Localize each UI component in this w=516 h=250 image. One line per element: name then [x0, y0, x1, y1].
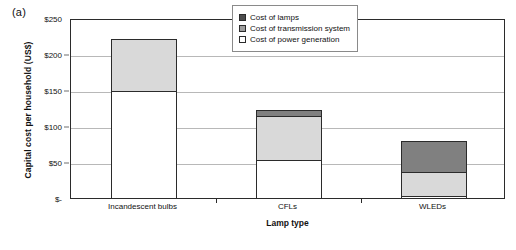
bar-segment — [111, 39, 177, 93]
chart-figure: (a) Capital cost per household (US$) $-$… — [0, 0, 516, 250]
y-tick-label: $100 — [44, 123, 62, 132]
legend-label: Cost of lamps — [250, 13, 299, 22]
y-tick-label: $- — [55, 195, 62, 204]
legend-swatch-icon — [239, 36, 246, 43]
legend-swatch-icon — [239, 14, 246, 21]
x-tick-label: Incandescent bulbs — [108, 202, 177, 211]
panel-label: (a) — [12, 6, 26, 18]
y-tick-label: $50 — [49, 159, 62, 168]
x-tick-label: CFLs — [278, 202, 297, 211]
bar-cfls — [256, 107, 322, 198]
x-axis-title: Lamp type — [70, 218, 505, 228]
bar-segment — [256, 116, 322, 161]
x-axis-tick-labels: Incandescent bulbsCFLsWLEDs — [70, 202, 505, 216]
bar-segment — [401, 196, 467, 200]
x-tick-label: WLEDs — [419, 202, 446, 211]
y-tick-label: $200 — [44, 51, 62, 60]
legend-item: Cost of power generation — [239, 35, 350, 44]
bar-incandescent-bulbs — [111, 36, 177, 198]
y-tick-label: $150 — [44, 87, 62, 96]
y-tick-label: $250 — [44, 15, 62, 24]
legend-item: Cost of transmission system — [239, 24, 350, 33]
legend-label: Cost of transmission system — [250, 24, 350, 33]
bar-segment — [111, 91, 177, 199]
legend-item: Cost of lamps — [239, 13, 350, 22]
legend-swatch-icon — [239, 25, 246, 32]
y-axis-tick-labels: $-$50$100$150$200$250 — [0, 19, 66, 199]
bar-segment — [256, 160, 322, 200]
y-tick-mark — [64, 127, 69, 128]
legend-label: Cost of power generation — [250, 35, 339, 44]
bar-segment — [401, 172, 467, 197]
y-tick-mark — [64, 163, 69, 164]
chart-legend: Cost of lamps Cost of transmission syste… — [232, 5, 358, 52]
bar-segment — [401, 141, 467, 173]
y-tick-mark — [64, 55, 69, 56]
y-tick-mark — [64, 91, 69, 92]
bar-wleds — [401, 137, 467, 198]
